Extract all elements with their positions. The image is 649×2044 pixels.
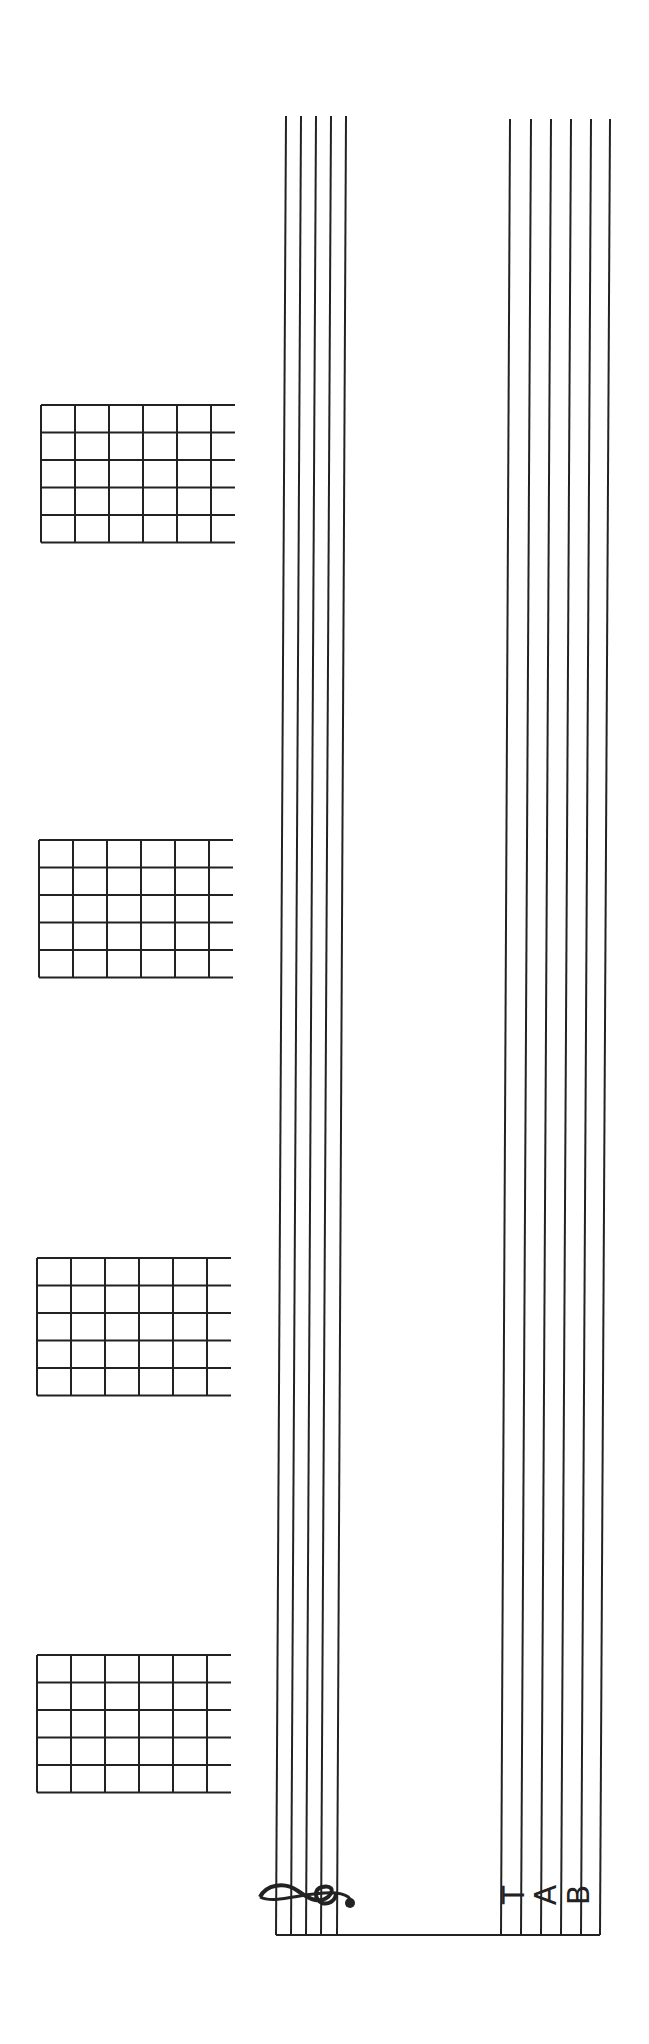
chord-diagram bbox=[37, 1258, 231, 1396]
music-staff bbox=[276, 116, 346, 1935]
staff-line bbox=[306, 116, 316, 1935]
chord-diagram bbox=[41, 405, 235, 543]
tab-line bbox=[521, 119, 531, 1935]
treble-clef-icon bbox=[260, 1885, 355, 1908]
staff-line bbox=[291, 116, 301, 1935]
chord-diagram bbox=[37, 1655, 231, 1793]
chord-diagram bbox=[39, 840, 233, 978]
staff-line bbox=[337, 116, 346, 1935]
staff-line bbox=[276, 116, 286, 1935]
tablature-staff bbox=[501, 119, 610, 1935]
tab-line bbox=[581, 119, 591, 1935]
tab-line bbox=[561, 119, 571, 1935]
tab-line bbox=[501, 119, 510, 1935]
tab-letter: T bbox=[496, 1885, 531, 1905]
tab-line bbox=[541, 119, 551, 1935]
music-sheet: TAB bbox=[0, 0, 649, 2044]
chord-diagrams bbox=[37, 405, 235, 1793]
tab-label: TAB bbox=[496, 1884, 596, 1905]
tab-letter: B bbox=[561, 1885, 596, 1906]
staff-line bbox=[321, 116, 331, 1935]
tab-line bbox=[600, 119, 610, 1935]
tab-letter: A bbox=[528, 1884, 563, 1905]
